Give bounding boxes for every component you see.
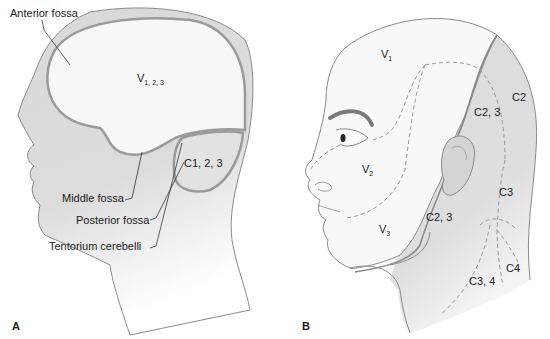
label-anterior-fossa: Anterior fossa <box>10 7 79 19</box>
label-c2: C2 <box>512 91 526 103</box>
label-c23-scalp: C2, 3 <box>474 106 500 118</box>
panel-label-a: A <box>12 320 20 332</box>
panel-b: V1 V2 V3 C2 C2, 3 C2, 3 C3 C3, 4 C4 B <box>302 19 537 333</box>
label-middle-fossa: Middle fossa <box>62 192 125 204</box>
label-c4: C4 <box>506 262 520 274</box>
label-c123: C1, 2, 3 <box>184 157 223 169</box>
label-posterior-fossa: Posterior fossa <box>76 214 150 226</box>
label-tentorium-cerebelli: Tentorium cerebelli <box>49 240 141 252</box>
dermatome-diagram: Anterior fossa Middle fossa Tentorium ce… <box>0 0 550 339</box>
label-c3: C3 <box>499 186 513 198</box>
label-c34: C3, 4 <box>469 275 495 287</box>
panel-a: Anterior fossa Middle fossa Tentorium ce… <box>10 7 253 335</box>
panel-label-b: B <box>302 320 310 332</box>
label-c23-jaw: C2, 3 <box>426 211 452 223</box>
